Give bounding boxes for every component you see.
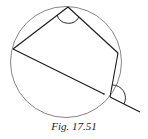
point-marker: [103, 93, 105, 95]
chord-left-inner: [13, 49, 104, 94]
angle-arc-top: [57, 15, 79, 23]
geometry-diagram: [0, 0, 148, 120]
chord-left-top: [13, 7, 68, 49]
extended-line: [110, 97, 140, 112]
figure-caption: Fig. 17.51: [0, 120, 148, 132]
